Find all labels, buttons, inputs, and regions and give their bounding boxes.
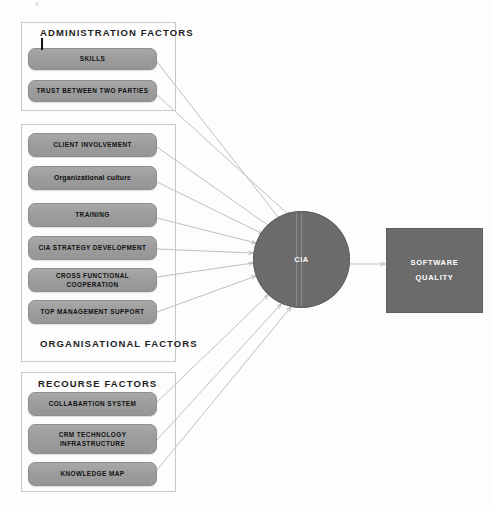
group-title-organisational: ORGANISATIONAL FACTORS [40,338,198,349]
factor-box-trust-between-two-parties[interactable]: TRUST BETWEEN TWO PARTIES [28,80,157,102]
factor-box-crm-technology-infrastructure[interactable]: CRM TECHNOLOGY INFRASTRUCTURE [28,424,157,454]
outcome-node-software-quality[interactable]: SOFTWARE QUALITY [386,228,483,313]
diagram-canvas: ADMINISTRATION FACTORS SKILLS TRUST BETW… [0,0,493,508]
factor-box-knowledge-map[interactable]: KNOWLEDGE MAP [28,462,157,486]
connector-arrow [157,95,290,216]
factor-box-organizational-culture[interactable]: Organizational culture [28,166,157,190]
hub-node-cia[interactable]: CIA [253,211,350,308]
factor-box-collaboration-system[interactable]: COLLABARTION SYSTEM [28,392,157,416]
factor-box-cross-functional-cooperation[interactable]: CROSS FUNCTIONAL COOPERATION [28,268,157,292]
connector-arrow [157,307,291,470]
scan-artifact-speck [35,2,39,6]
factor-box-top-management-support[interactable]: TOP MANAGEMENT SUPPORT [28,300,157,324]
outcome-label-line1: SOFTWARE [410,256,458,270]
factor-box-training[interactable]: TRAINING [28,203,157,227]
factor-box-client-involvement[interactable]: CLIENT INVOLVEMENT [28,133,157,157]
factor-box-cia-strategy-development[interactable]: CIA STRATEGY DEVELOPMENT [28,236,157,260]
hub-label: CIA [294,255,309,264]
group-title-recourse: RECOURSE FACTORS [38,378,157,389]
factor-box-skills[interactable]: SKILLS [28,48,157,70]
group-title-administration: ADMINISTRATION FACTORS [40,27,194,38]
pen-tick-artifact [41,38,43,50]
outcome-label-line2: QUALITY [416,271,454,285]
